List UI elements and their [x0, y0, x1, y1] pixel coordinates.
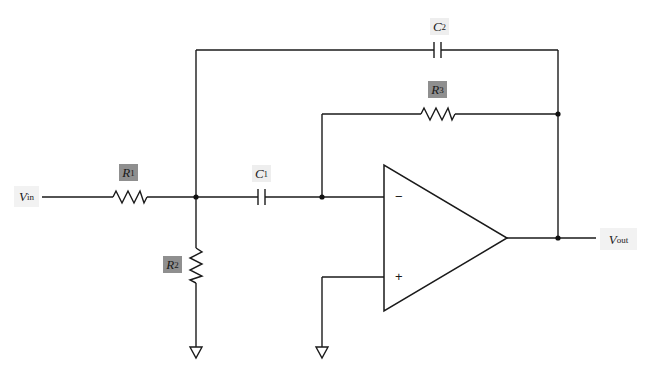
- junction-node-b: [319, 194, 324, 199]
- resistor-r3-icon: [421, 108, 455, 120]
- label-c2: C2: [430, 18, 449, 35]
- resistor-r1-icon: [113, 191, 147, 203]
- label-vin-symbol: V: [19, 190, 27, 203]
- resistor-r2-icon: [190, 248, 202, 283]
- circuit-schematic: [0, 0, 647, 377]
- label-r1: R1: [119, 164, 138, 181]
- label-c2-sub: 2: [442, 23, 447, 32]
- ground-icon-opamp: [316, 347, 328, 358]
- junction-r3-right: [555, 111, 560, 116]
- label-c1-sub: 1: [264, 170, 269, 179]
- opamp-noninverting-sign: +: [395, 270, 403, 283]
- label-r1-sub: 1: [130, 169, 135, 178]
- label-vout-symbol: V: [609, 233, 617, 246]
- label-r3-symbol: R: [431, 83, 439, 96]
- label-r2-symbol: R: [166, 258, 174, 271]
- label-r3: R3: [428, 81, 447, 98]
- ground-icon-r2: [190, 347, 202, 358]
- label-c1: C1: [252, 165, 271, 182]
- label-c1-symbol: C: [255, 167, 264, 180]
- label-c2-symbol: C: [433, 20, 442, 33]
- opamp-icon: [384, 165, 507, 311]
- opamp-inverting-sign: −: [395, 190, 403, 203]
- label-r1-symbol: R: [122, 166, 130, 179]
- label-vin: Vin: [14, 186, 39, 207]
- label-r2-sub: 2: [174, 261, 179, 270]
- label-vin-sub: in: [27, 193, 34, 202]
- label-vout: Vout: [600, 228, 637, 250]
- label-vout-sub: out: [617, 236, 629, 245]
- junction-output: [555, 235, 560, 240]
- label-r3-sub: 3: [439, 86, 444, 95]
- junction-node-a: [193, 194, 198, 199]
- label-r2: R2: [163, 256, 182, 273]
